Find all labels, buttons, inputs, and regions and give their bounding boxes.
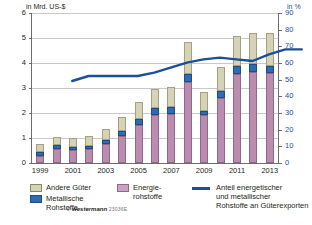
right-axis-tickmark [279, 80, 282, 81]
bar-1999 [36, 144, 44, 163]
right-axis-tick-10: 10 [285, 141, 299, 150]
left-axis-tickmark [29, 163, 32, 164]
legend-swatch-metallische-rohstoffe [30, 195, 42, 203]
legend-label-energierohstoffe-line1: Energie- [133, 183, 161, 192]
legend-swatch-anteil-line [192, 187, 210, 190]
chart-container: in Mrd. US-$ in % 0123456 01020304050607… [0, 0, 312, 225]
right-axis-tickmark [279, 96, 282, 97]
bar-segment-andere-g-ter [53, 137, 61, 146]
right-axis-tick-40: 40 [285, 91, 299, 100]
bar-segment-andere-g-ter [36, 144, 44, 152]
copyright-code: 23036E [109, 206, 127, 212]
right-axis-tick-30: 30 [285, 108, 299, 117]
left-axis-tick-6: 6 [14, 8, 26, 17]
legend-swatch-andere-gueter [30, 184, 42, 192]
legend-label-anteil-line2: und metallischer [216, 192, 271, 201]
left-axis-tickmark [29, 113, 32, 114]
right-axis-tickmark [279, 163, 282, 164]
x-axis-tick-2013: 2013 [257, 166, 283, 175]
right-axis-tick-90: 90 [285, 8, 299, 17]
bar-segment-energierohstoffe [36, 156, 44, 164]
left-axis-tick-4: 4 [14, 58, 26, 67]
left-axis-tick-1: 1 [14, 133, 26, 142]
copyright-symbol: © [66, 206, 70, 212]
legend-label-metallische-rohstoffe-line1: Metallische [46, 194, 84, 203]
right-axis-tickmark [279, 146, 282, 147]
right-axis-tickmark [279, 13, 282, 14]
left-axis-tick-0: 0 [14, 158, 26, 167]
bar-segment-metallische-rohstoffe [53, 145, 61, 149]
legend-label-anteil-line1: Anteil energetischer [216, 183, 282, 192]
left-axis-tickmark [29, 138, 32, 139]
right-axis-tickmark [279, 46, 282, 47]
plot-area [32, 13, 278, 163]
bar-segment-energierohstoffe [53, 149, 61, 163]
x-axis-tick-2003: 2003 [93, 166, 119, 175]
right-axis-tick-60: 60 [285, 58, 299, 67]
bar-2000 [53, 137, 61, 164]
right-axis-tickmark [279, 113, 282, 114]
bar-segment-metallische-rohstoffe [36, 152, 44, 155]
x-axis-tick-2001: 2001 [60, 166, 86, 175]
legend-label-anteil-line3: Rohstoffe an Güterexporten [216, 201, 308, 210]
right-axis-tickmark [279, 130, 282, 131]
right-axis-tick-70: 70 [285, 41, 299, 50]
left-axis-title: in Mrd. US-$ [26, 3, 65, 10]
share-line [72, 49, 302, 81]
gridline [32, 13, 278, 14]
right-axis-tickmark [279, 30, 282, 31]
publisher-name: westermann [72, 206, 107, 212]
right-axis-tick-80: 80 [285, 25, 299, 34]
legend: Andere Güter Metallische Rohstoffe Energ… [30, 183, 310, 223]
x-axis-tick-2005: 2005 [126, 166, 152, 175]
x-axis-tick-2007: 2007 [158, 166, 184, 175]
right-axis-tick-0: 0 [285, 158, 299, 167]
left-axis-tickmark [29, 88, 32, 89]
left-axis-tick-3: 3 [14, 83, 26, 92]
legend-swatch-energierohstoffe [117, 184, 129, 192]
legend-label-andere-gueter: Andere Güter [46, 183, 91, 192]
left-axis-tick-5: 5 [14, 33, 26, 42]
line-series-svg [64, 26, 310, 176]
x-axis-tick-2009: 2009 [191, 166, 217, 175]
legend-label-energierohstoffe-line2: rohstoffe [133, 192, 162, 201]
right-axis-tickmark [279, 63, 282, 64]
right-axis-tick-50: 50 [285, 75, 299, 84]
x-axis-tick-2011: 2011 [224, 166, 250, 175]
right-axis-tick-20: 20 [285, 125, 299, 134]
copyright-notice: © westermann 23036E [66, 206, 127, 212]
left-axis-tick-2: 2 [14, 108, 26, 117]
left-axis-tickmark [29, 13, 32, 14]
left-axis-tickmark [29, 63, 32, 64]
left-axis-tickmark [29, 38, 32, 39]
x-axis-tick-1999: 1999 [27, 166, 53, 175]
